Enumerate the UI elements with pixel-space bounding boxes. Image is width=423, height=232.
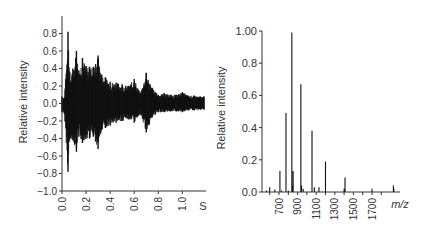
left-x-tick-label: 0.8 — [153, 197, 164, 211]
right-x-tick-label: 700 — [274, 198, 285, 215]
time-domain-panel: 0.80.60.40.20.0−0.2−0.4−0.6−0.8−1.00.00.… — [17, 16, 207, 212]
left-y-tick-label: −0.4 — [37, 133, 57, 144]
right-y-tick-label: 0.6 — [242, 89, 257, 101]
right-y-tick-label: 0.2 — [242, 154, 257, 166]
left-y-tick-label: −1.0 — [37, 186, 57, 197]
left-x-tick-label: 1.0 — [177, 197, 188, 211]
left-y-tick-label: −0.6 — [37, 151, 57, 162]
right-y-tick-label: 1.00 — [236, 25, 257, 37]
left-x-tick-label: 0.4 — [105, 197, 116, 211]
left-y-tick-label: −0.2 — [37, 116, 57, 127]
mass-spectrum-panel: 0.00.20.40.60.81.00700900110013001500170… — [215, 25, 409, 220]
left-x-tick-label: 0.2 — [81, 197, 92, 211]
right-y-tick-label: 0.8 — [242, 57, 257, 69]
left-y-tick-label: −0.8 — [37, 168, 57, 179]
right-x-tick-label: 900 — [292, 198, 303, 215]
left-x-tick-label: 0.0 — [57, 197, 68, 211]
transient-waveform — [62, 32, 204, 172]
left-y-tick-label: 0.4 — [43, 63, 57, 74]
right-x-tick-label: 1500 — [348, 198, 359, 221]
right-x-tick-label: 1100 — [311, 198, 322, 220]
spectrum-peaks — [266, 33, 393, 192]
right-x-tick-label: 1700 — [367, 198, 378, 221]
right-y-axis-label: Relative intensity — [215, 66, 227, 150]
right-y-tick-label: 0.4 — [242, 122, 257, 134]
figure: 0.80.60.40.20.0−0.2−0.4−0.6−0.8−1.00.00.… — [0, 0, 423, 232]
right-x-tick-label: 1300 — [329, 198, 340, 221]
left-y-tick-label: 0.2 — [43, 81, 57, 92]
right-y-tick-label: 0.0 — [242, 186, 257, 198]
left-y-tick-label: 0.8 — [43, 28, 57, 39]
left-x-tick-label: 0.6 — [129, 197, 140, 211]
right-axes: 0.00.20.40.60.81.00700900110013001500170… — [236, 25, 400, 220]
left-y-tick-label: 0.0 — [43, 98, 57, 109]
right-x-axis-label: m/z — [391, 198, 409, 210]
left-x-unit-label: S — [199, 200, 206, 212]
left-y-axis-label: Relative intensity — [17, 60, 29, 144]
left-y-tick-label: 0.6 — [43, 46, 57, 57]
